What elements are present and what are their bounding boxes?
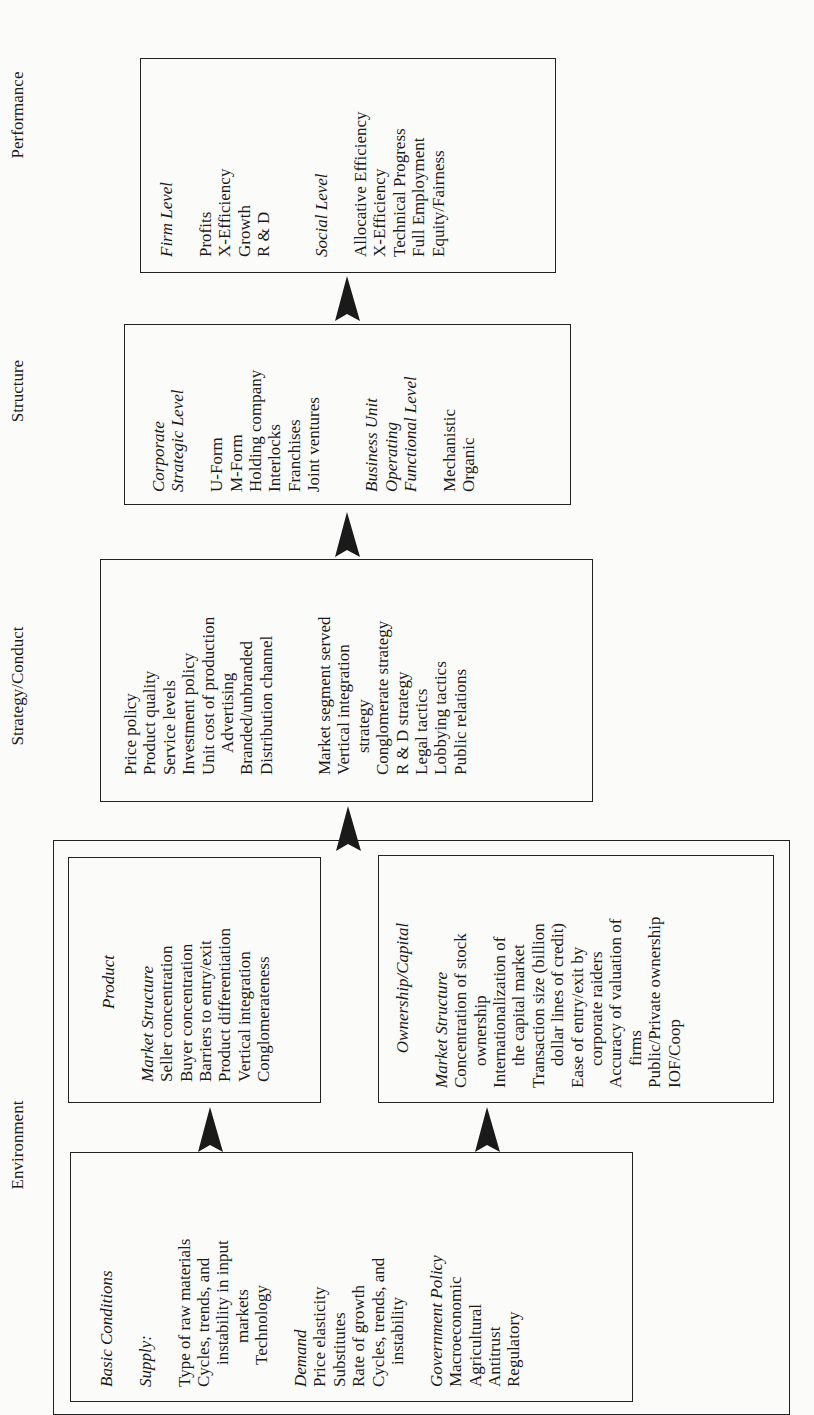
- arrow-environment-to-strategy-icon: [336, 806, 361, 851]
- arrow-basic-to-product-icon: [198, 1107, 223, 1152]
- arrow-structure-to-performance-icon: [335, 276, 360, 321]
- arrow-basic-to-ownership-icon: [475, 1107, 500, 1152]
- arrow-strategy-to-structure-icon: [335, 512, 360, 557]
